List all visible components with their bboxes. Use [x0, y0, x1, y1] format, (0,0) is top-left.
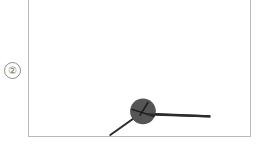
panel-caption: [0, 0, 1, 1]
long-line-right-overlay-icon: [148, 114, 210, 116]
plot-canvas: [29, 0, 250, 136]
panel-index-marker: ②: [4, 62, 21, 79]
figure-panel: ②: [0, 0, 261, 146]
panel-index-label: ②: [8, 66, 17, 76]
plot-frame: [28, 0, 251, 137]
